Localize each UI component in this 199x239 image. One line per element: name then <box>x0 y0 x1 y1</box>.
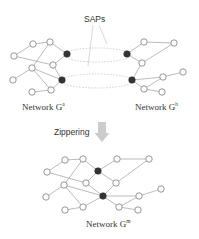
node <box>180 69 186 75</box>
node <box>80 156 86 162</box>
sap-link-ellipse-bottom <box>61 74 133 88</box>
node <box>114 156 120 162</box>
sap-node <box>100 193 107 200</box>
sap-node <box>64 51 71 58</box>
node <box>116 204 122 210</box>
down-arrow-icon <box>95 122 110 142</box>
node <box>160 74 166 80</box>
node <box>47 39 53 45</box>
sap-node <box>129 77 136 84</box>
node <box>61 182 67 188</box>
sap-pointer-line <box>99 25 107 44</box>
sap-link-ellipse-top <box>63 48 131 62</box>
node <box>171 40 177 46</box>
node <box>62 207 68 213</box>
saps-label: SAPs <box>84 14 105 24</box>
node <box>135 207 141 213</box>
sap-node <box>95 168 102 175</box>
node <box>139 60 145 66</box>
node <box>29 89 35 95</box>
node <box>159 89 165 95</box>
sap-node <box>59 77 66 84</box>
network-a-nodes <box>10 39 71 95</box>
network-a-label: Network Ga <box>22 101 65 112</box>
node <box>136 193 142 199</box>
zippering-diagram: SAPs <box>0 0 199 239</box>
node <box>62 157 68 163</box>
zippering-label: Zippering <box>54 127 90 137</box>
network-b-edges <box>127 42 183 92</box>
node <box>141 86 147 92</box>
node <box>11 53 17 59</box>
network-b-label: Network Gb <box>135 101 178 112</box>
sap-node <box>124 51 131 58</box>
node <box>158 186 164 192</box>
network-m-nodes <box>43 156 164 213</box>
node <box>43 194 49 200</box>
network-m-label: Network Gm <box>86 218 131 229</box>
node <box>29 65 35 71</box>
node <box>83 180 89 186</box>
node <box>10 77 16 83</box>
node <box>80 204 86 210</box>
network-a-edges <box>13 42 67 92</box>
node <box>30 41 36 47</box>
node <box>50 62 56 68</box>
sap-pointer-line <box>88 25 93 66</box>
network-b-nodes <box>124 39 187 95</box>
node <box>48 87 54 93</box>
node <box>113 180 119 186</box>
node <box>146 156 152 162</box>
node <box>141 39 147 45</box>
node <box>44 169 50 175</box>
